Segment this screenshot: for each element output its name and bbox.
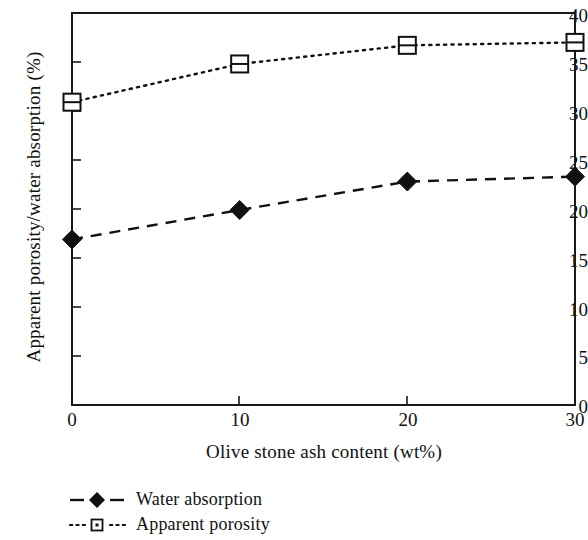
chart-legend: Water absorption Apparent porosity [66, 487, 270, 537]
data-point-marker [230, 200, 249, 219]
x-axis-label: Olive stone ash content (wt%) [72, 441, 576, 463]
series-2 [64, 34, 584, 111]
series-1 [63, 167, 585, 249]
legend-key-filled-diamond-icon [66, 489, 132, 511]
series-line-open-square [72, 42, 575, 102]
chart-figure: Apparent porosity/water absorption (%) 4… [0, 0, 588, 540]
axes-frame [72, 13, 575, 405]
legend-item-water-absorption: Water absorption [66, 487, 270, 512]
legend-label-apparent-porosity: Apparent porosity [132, 514, 270, 535]
data-point-marker [566, 167, 585, 186]
legend-key-open-square-icon [66, 514, 132, 536]
legend-item-apparent-porosity: Apparent porosity [66, 512, 270, 537]
y-axis-ticks [72, 13, 81, 405]
series-line-filled-diamond [72, 177, 575, 240]
legend-label-water-absorption: Water absorption [132, 489, 262, 510]
data-point-marker [63, 230, 82, 249]
x-axis-ticks [72, 396, 575, 405]
data-point-marker [398, 172, 417, 191]
data-series-layer [63, 34, 585, 249]
